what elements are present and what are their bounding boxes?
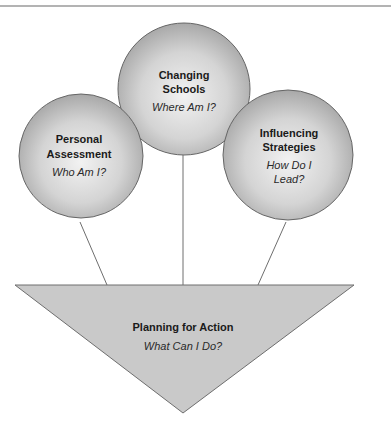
personal-title-2: Assessment (47, 148, 112, 160)
influencing-question-1: How Do I (266, 159, 311, 171)
changing-question: Where Am I? (152, 101, 217, 113)
influencing-strategies-circle (223, 90, 353, 220)
planning-title: Planning for Action (132, 321, 233, 333)
connector-personal (80, 222, 107, 285)
personal-title-1: Personal (56, 133, 102, 145)
planning-question: What Can I Do? (144, 340, 223, 352)
changing-title-1: Changing (159, 69, 210, 81)
influencing-title-2: Strategies (262, 141, 315, 153)
personal-question: Who Am I? (52, 166, 107, 178)
connector-influencing (258, 222, 286, 285)
influencing-question-2: Lead? (274, 173, 305, 185)
influencing-title-1: Influencing (260, 127, 319, 139)
changing-title-2: Schools (163, 83, 206, 95)
diagram-canvas: Changing Schools Where Am I? Personal As… (0, 0, 391, 427)
